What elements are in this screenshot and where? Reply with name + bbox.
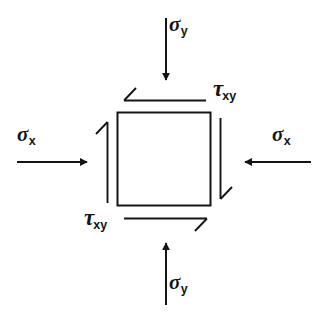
- sigma-glyph: σ: [272, 122, 283, 146]
- label-sigma-y-bottom: σy: [169, 272, 188, 296]
- sigma-x-subscript: x: [284, 134, 291, 148]
- label-tau-xy-bottom: τxy: [84, 206, 107, 231]
- label-tau-xy-top: τxy: [213, 77, 236, 102]
- tau-right-arrow: [221, 118, 233, 199]
- sigma-glyph: σ: [169, 270, 180, 294]
- label-sigma-x-right: σx: [272, 124, 291, 148]
- sigma-x-subscript: x: [29, 134, 36, 148]
- stress-element-diagram: [0, 0, 327, 323]
- label-sigma-y-top: σy: [169, 14, 188, 38]
- sigma-glyph: σ: [17, 122, 28, 146]
- sigma-y-subscript: y: [181, 282, 188, 296]
- stress-element-square: [118, 113, 211, 206]
- sigma-y-subscript: y: [181, 24, 188, 38]
- sigma-glyph: σ: [169, 12, 180, 36]
- tau-xy-subscript: xy: [222, 89, 236, 103]
- label-sigma-x-left: σx: [17, 124, 36, 148]
- tau-xy-subscript: xy: [93, 218, 107, 232]
- tau-bottom-arrow: [124, 219, 207, 232]
- tau-left-arrow: [96, 122, 108, 203]
- figure-canvas: σy σy σx σx τxy τxy: [0, 0, 327, 323]
- tau-top-arrow: [124, 88, 206, 101]
